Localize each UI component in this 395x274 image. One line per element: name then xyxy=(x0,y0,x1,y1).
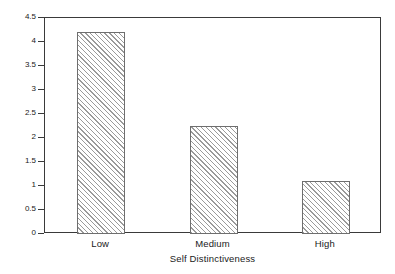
bar-low xyxy=(77,32,125,234)
y-axis-tick-label: 2 xyxy=(2,133,36,141)
y-axis-tick-label: 3.5 xyxy=(2,61,36,69)
bar-high xyxy=(302,181,350,234)
y-axis-tick-label: 4 xyxy=(2,37,36,45)
y-axis-tick-label: 0 xyxy=(2,229,36,237)
y-axis-tick-label: 2.5 xyxy=(2,109,36,117)
bar-medium xyxy=(190,126,238,234)
x-axis-title: Self Distinctiveness xyxy=(44,253,381,264)
y-axis-tick-label: 1 xyxy=(2,181,36,189)
bar-chart-figure: Me-We Mutual Control Scores 4.543.532.52… xyxy=(0,0,395,274)
plot-area xyxy=(44,17,381,233)
x-axis-tick-label: High xyxy=(280,238,370,249)
y-axis-tick-label: 3 xyxy=(2,85,36,93)
x-axis-tick-label: Medium xyxy=(168,238,258,249)
y-axis-tick-label: 1.5 xyxy=(2,157,36,165)
y-axis-tick-label: 4.5 xyxy=(2,13,36,21)
y-axis-tick-label: 0.5 xyxy=(2,205,36,213)
x-axis-tick-label: Low xyxy=(55,238,145,249)
